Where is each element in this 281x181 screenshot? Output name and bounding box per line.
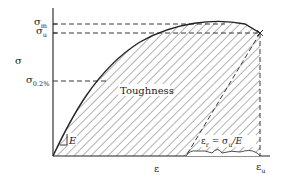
sigma-02-label: σ0.2% — [26, 74, 49, 88]
x-axis-label: ε — [154, 163, 159, 174]
stress-strain-diagram: E σ σm σu σ0.2% ε εu Toughness εr = σu/E — [0, 0, 281, 181]
y-axis-labels: σ σm σu σ0.2% — [15, 16, 49, 88]
modulus-label: E — [68, 135, 77, 146]
epsilon-u-label: εu — [256, 161, 265, 175]
y-axis-label: σ — [15, 55, 22, 66]
toughness-label: Toughness — [120, 85, 174, 96]
x-axis-labels: ε εu — [154, 161, 265, 175]
